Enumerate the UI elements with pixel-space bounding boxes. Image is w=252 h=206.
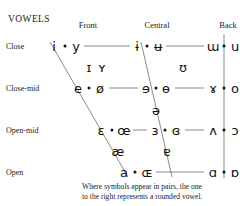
- vowel-symbol-ɵ: ɵ: [162, 82, 170, 95]
- row-label-open-mid: Open-mid: [6, 126, 38, 135]
- pair-separator-dot: [88, 87, 91, 90]
- vowel-symbol-ɪ: ɪ: [87, 61, 92, 74]
- chart-caption: Where symbols appear in pairs, the one t…: [82, 182, 250, 202]
- column-header-central: Central: [144, 20, 169, 30]
- vowel-symbol-ɯ: ɯ: [207, 40, 220, 53]
- column-header-front: Front: [79, 20, 97, 30]
- caption-line-1: Where symbols appear in pairs, the one: [82, 182, 250, 192]
- row-label-close-mid: Close-mid: [6, 84, 39, 93]
- vowel-symbol-y: y: [72, 40, 80, 53]
- vowel-symbol-ʏ: ʏ: [98, 61, 106, 74]
- vowel-symbol-ɶ: ɶ: [141, 166, 152, 179]
- vowel-symbol-ʉ: ʉ: [154, 40, 162, 53]
- vowel-symbol-ɛ: ɛ: [97, 124, 104, 137]
- pair-separator-dot: [64, 45, 67, 48]
- vowel-symbol-ɘ: ɘ: [142, 82, 150, 95]
- vowel-symbol-u: u: [231, 40, 239, 53]
- vowel-symbol-i: i: [52, 40, 56, 53]
- vowel-symbol-ɑ: ɑ: [209, 166, 217, 179]
- row-label-close: Close: [6, 42, 24, 51]
- vowel-symbol-e: e: [74, 82, 82, 95]
- pair-separator-dot: [223, 87, 226, 90]
- vowel-symbol-ɞ: ɞ: [172, 124, 181, 137]
- pair-separator-dot: [223, 171, 226, 174]
- vowel-symbol-æ: æ: [112, 145, 125, 158]
- vowel-symbol-ø: ø: [96, 82, 104, 95]
- vowel-symbol-ɐ: ɐ: [163, 145, 171, 158]
- vowel-symbol-ə: ə: [152, 104, 160, 117]
- pair-separator-dot: [155, 87, 158, 90]
- pair-separator-dot: [111, 129, 114, 132]
- vowel-symbol-ʊ: ʊ: [179, 61, 187, 74]
- vowel-symbol-ʌ: ʌ: [209, 124, 217, 137]
- vowel-symbol-ɤ: ɤ: [209, 82, 217, 95]
- vowel-symbol-ɒ: ɒ: [231, 166, 239, 179]
- column-header-back: Back: [219, 20, 236, 30]
- pair-separator-dot: [134, 171, 137, 174]
- vowel-symbol-œ: œ: [117, 124, 130, 137]
- page-title: VOWELS: [8, 14, 50, 24]
- pair-separator-dot: [223, 129, 226, 132]
- vowel-chart-figure: VOWELS Front Central Back Close Close-mi…: [0, 0, 252, 206]
- vowel-symbol-ɜ: ɜ: [152, 124, 159, 137]
- pair-separator-dot: [146, 45, 149, 48]
- row-label-open: Open: [6, 168, 23, 177]
- vowel-symbol-ɨ: ɨ: [135, 40, 139, 53]
- vowel-symbol-a: a: [120, 166, 128, 179]
- caption-line-2: to the right represents a rounded vowel.: [82, 192, 250, 202]
- vowel-symbol-ɔ: ɔ: [231, 124, 238, 137]
- pair-separator-dot: [164, 129, 167, 132]
- vowel-symbol-o: o: [231, 82, 239, 95]
- pair-separator-dot: [223, 45, 226, 48]
